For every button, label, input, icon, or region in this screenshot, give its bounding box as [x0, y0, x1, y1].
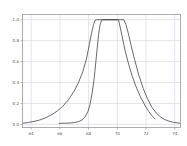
y-tick-label: 1.0 [13, 17, 20, 22]
line-chart: 646668707274 0.00.20.40.60.81.0 [0, 0, 187, 146]
y-tick-label: 0.6 [13, 59, 20, 64]
y-tick-label: 0.2 [13, 101, 20, 106]
y-tick-label: 0.0 [13, 122, 20, 127]
x-tick-label: 70 [115, 131, 121, 136]
x-tick-label: 66 [57, 131, 63, 136]
x-tick-label: 68 [86, 131, 92, 136]
y-tick-label: 0.4 [13, 80, 20, 85]
chart-container: 646668707274 0.00.20.40.60.81.0 [0, 0, 187, 146]
x-tick-label: 74 [172, 131, 178, 136]
y-tick-label: 0.8 [13, 38, 20, 43]
x-tick-label: 72 [143, 131, 149, 136]
x-tick-label: 64 [29, 131, 35, 136]
